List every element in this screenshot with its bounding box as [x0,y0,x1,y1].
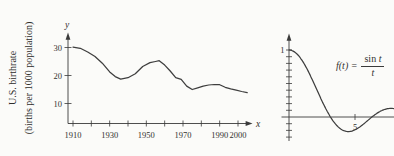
formula-lhs: f(t) = [336,60,357,71]
sinc-y-axis-arrow-icon [287,34,292,41]
formula-denominator: t [372,67,375,79]
y-axis-letter: y [64,20,70,30]
birthrate-axis-title: U.S. birthrate (births per 1000 populati… [5,3,37,153]
y-axis-arrow-icon [66,33,71,40]
birthrate-curve [73,47,247,92]
formula-numerator-var: t [379,53,382,64]
formula-fraction: sint t [361,53,384,79]
tick-label: 1930 [101,130,118,140]
tick-label: 30 [54,43,63,53]
figure-canvas: y x 191019301950197019902000102030 15 [0,0,394,156]
tick-label: 10 [54,99,63,109]
tick-label: 1990 [211,130,228,140]
formula-sin-label: sin [364,53,376,64]
textbook-figure: y x 191019301950197019902000102030 15 U.… [0,0,394,156]
tick-label: 20 [54,71,63,81]
birthrate-chart: y x 191019301950197019902000102030 [54,20,262,140]
tick-label: 1970 [175,130,192,140]
birthrate-ticks: 191019301950197019902000102030 [54,43,247,141]
tick-label: 1 [280,45,284,55]
tick-label: 1950 [138,130,155,140]
x-axis-letter: x [255,119,261,129]
birthrate-axis-title-line1: U.S. birthrate [5,3,21,153]
formula-numerator: sint [361,53,384,67]
x-axis-arrow-icon [246,121,253,126]
tick-label: 2000 [230,130,247,140]
tick-label: 1910 [65,130,82,140]
birthrate-axis-title-line2: (births per 1000 population) [21,3,37,153]
function-formula: f(t) = sint t [336,53,384,79]
sinc-chart: 15 [280,34,394,142]
